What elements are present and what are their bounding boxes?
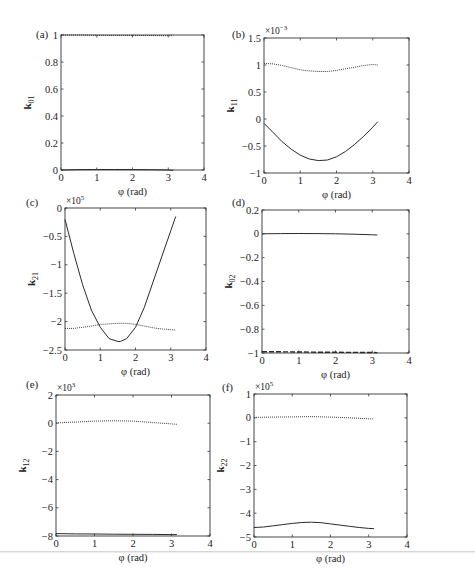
y-tick-label: −2 xyxy=(51,316,62,327)
x-tick-label: 2 xyxy=(133,352,138,363)
chart-panel-d: 01234−1−0.8−0.6−0.4−0.200.2φ (rad)k02 xyxy=(222,205,412,382)
axes-box xyxy=(56,395,210,536)
y-tick-label: 0 xyxy=(246,412,251,423)
axis-multiplier: ×10−3 xyxy=(265,24,288,36)
y-tick-label: −8 xyxy=(42,531,53,542)
x-tick-label: 0 xyxy=(259,355,264,366)
series-dotted xyxy=(65,323,176,330)
series-solid xyxy=(262,234,377,236)
axes-box xyxy=(264,38,409,173)
y-axis-label: k01 xyxy=(21,95,36,109)
y-tick-label: 0.5 xyxy=(248,87,261,98)
x-tick-label: 1 xyxy=(296,355,301,366)
x-tick-label: 3 xyxy=(366,539,371,550)
y-tick-label: 0 xyxy=(48,418,53,429)
axes-box xyxy=(65,208,206,350)
axis-multiplier: ×103 xyxy=(57,381,76,393)
y-tick-label: −3 xyxy=(240,484,251,495)
y-tick-label: 0.2 xyxy=(246,205,259,216)
y-tick-label: 0.6 xyxy=(45,84,58,95)
y-tick-label: −0.5 xyxy=(242,141,261,152)
x-tick-label: 0 xyxy=(62,352,67,363)
x-tick-label: 4 xyxy=(406,175,412,186)
x-tick-label: 4 xyxy=(201,172,207,183)
x-tick-label: 0 xyxy=(58,172,63,183)
series-dotted xyxy=(254,417,374,419)
y-tick-label: 0 xyxy=(57,203,62,214)
y-axis-label: k12 xyxy=(16,458,31,472)
chart-panel-b: 01234−1−0.500.511.5φ (rad)k11×10−3 xyxy=(224,24,412,201)
chart-panel-f: 01234−5−4−3−2−101φ (rad)k22×105 xyxy=(214,380,410,565)
series-dashed xyxy=(262,352,377,353)
y-tick-label: −2 xyxy=(240,460,251,471)
y-tick-label: 1 xyxy=(53,30,58,41)
x-tick-label: 1 xyxy=(98,352,103,363)
x-tick-label: 4 xyxy=(207,538,213,549)
axis-multiplier: ×105 xyxy=(66,194,85,206)
y-tick-label: −4 xyxy=(42,474,54,485)
x-tick-label: 4 xyxy=(404,539,410,550)
x-tick-label: 2 xyxy=(328,539,333,550)
x-tick-label: 3 xyxy=(168,352,173,363)
y-tick-label: −2.5 xyxy=(43,345,62,356)
x-axis-label: φ (rad) xyxy=(316,553,346,565)
y-tick-label: −1 xyxy=(240,436,251,447)
figure-canvas: 0123400.20.40.60.81φ (rad)k0101234−1−0.5… xyxy=(0,0,475,584)
x-tick-label: 3 xyxy=(370,355,375,366)
x-axis-label: φ (rad) xyxy=(118,186,148,198)
series-solid xyxy=(264,122,378,161)
y-tick-label: −4 xyxy=(240,508,252,519)
x-axis-label: φ (rad) xyxy=(321,369,351,381)
y-tick-label: 1.5 xyxy=(248,33,261,44)
chart-panel-e: 01234−8−6−4−202φ (rad)k12×103 xyxy=(16,381,213,564)
axes-box xyxy=(61,35,204,170)
y-tick-label: 0.2 xyxy=(45,138,58,149)
x-tick-label: 4 xyxy=(406,355,412,366)
x-tick-label: 0 xyxy=(251,539,256,550)
series-dotted xyxy=(56,421,177,425)
x-tick-label: 0 xyxy=(261,175,266,186)
x-tick-label: 4 xyxy=(203,352,209,363)
y-tick-label: −1 xyxy=(51,259,62,270)
y-tick-label: −1.5 xyxy=(43,288,62,299)
y-tick-label: 0.8 xyxy=(45,57,58,68)
series-solid xyxy=(56,534,177,535)
y-axis-label: k22 xyxy=(214,458,229,472)
x-axis-label: φ (rad) xyxy=(322,189,352,201)
y-tick-label: −0.4 xyxy=(240,276,260,287)
y-tick-label: −0.5 xyxy=(43,231,62,242)
x-tick-label: 3 xyxy=(169,538,174,549)
x-tick-label: 1 xyxy=(290,539,295,550)
chart-panel-a: 0123400.20.40.60.81φ (rad)k01 xyxy=(21,30,207,199)
y-tick-label: −2 xyxy=(42,446,53,457)
y-tick-label: −0.8 xyxy=(240,324,259,335)
y-tick-label: 1 xyxy=(246,389,251,400)
x-tick-label: 2 xyxy=(130,538,135,549)
chart-panel-c: 01234−2.5−2−1.5−1−0.50φ (rad)k21×105 xyxy=(25,194,209,378)
x-tick-label: 2 xyxy=(334,175,339,186)
y-tick-label: −1 xyxy=(248,348,259,359)
y-tick-label: −5 xyxy=(240,532,251,543)
x-tick-label: 2 xyxy=(130,172,135,183)
series-solid xyxy=(65,217,176,342)
x-tick-label: 1 xyxy=(94,172,99,183)
y-axis-label: k11 xyxy=(224,99,239,113)
axes-box xyxy=(254,394,407,537)
y-tick-label: 0 xyxy=(53,165,58,176)
x-axis-label: φ (rad) xyxy=(121,366,151,378)
series-solid xyxy=(254,522,374,529)
y-tick-label: −0.2 xyxy=(240,252,259,263)
y-tick-label: −6 xyxy=(42,502,53,513)
y-tick-label: 0.4 xyxy=(45,111,59,122)
y-tick-label: 0 xyxy=(256,114,261,125)
axis-multiplier: ×105 xyxy=(255,380,274,392)
y-axis-label: k21 xyxy=(25,272,40,286)
x-tick-label: 3 xyxy=(166,172,171,183)
x-tick-label: 2 xyxy=(333,355,338,366)
y-tick-label: 2 xyxy=(48,390,53,401)
x-tick-label: 0 xyxy=(53,538,58,549)
y-axis-label: k02 xyxy=(222,274,237,288)
y-tick-label: −0.6 xyxy=(240,300,259,311)
y-tick-label: −1 xyxy=(250,168,261,179)
y-tick-label: 1 xyxy=(256,60,261,71)
